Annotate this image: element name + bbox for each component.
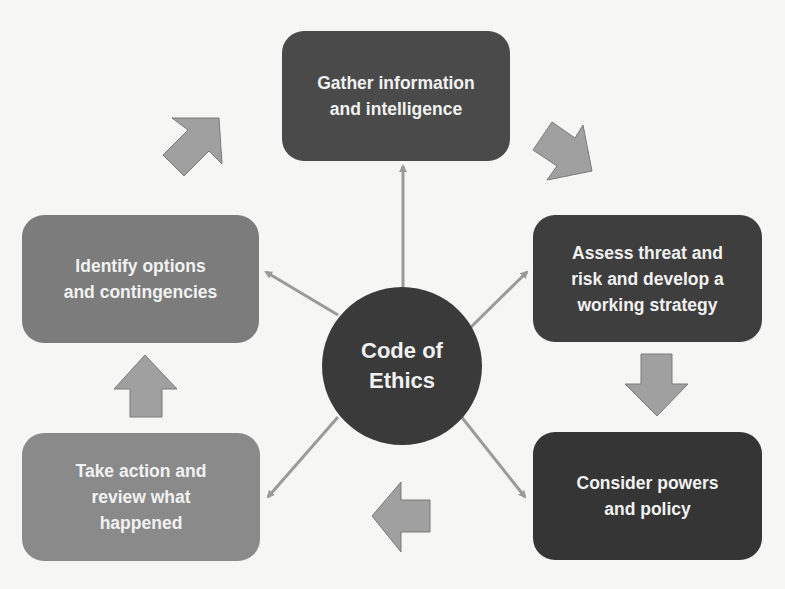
connector-to-consider (460, 415, 525, 497)
step-gather-label: Gather information and intelligence (317, 70, 475, 122)
block-arrow-down-right-icon (533, 122, 592, 180)
step-action-label: Take action and review what happened (76, 458, 207, 536)
block-arrow-left-icon (372, 482, 430, 552)
step-assess-label: Assess threat and risk and develop a wor… (571, 240, 724, 318)
step-consider-label: Consider powers and policy (577, 470, 719, 522)
step-gather-information: Gather information and intelligence (282, 31, 510, 161)
hub-code-of-ethics: Code of Ethics (322, 287, 482, 445)
hub-label: Code of Ethics (361, 336, 443, 396)
code-of-ethics-diagram: Gather information and intelligence Asse… (0, 0, 785, 589)
connector-to-action (268, 417, 338, 497)
step-identify-options: Identify options and contingencies (22, 215, 259, 343)
step-identify-label: Identify options and contingencies (64, 253, 218, 305)
block-arrow-down-icon (625, 354, 688, 416)
step-take-action: Take action and review what happened (22, 433, 260, 561)
connector-to-assess (468, 272, 527, 330)
step-assess-threat: Assess threat and risk and develop a wor… (533, 215, 762, 342)
step-consider-powers: Consider powers and policy (533, 432, 762, 560)
block-arrow-up-right-icon (163, 118, 222, 176)
block-arrow-up-icon (114, 355, 177, 417)
connector-to-identify (266, 272, 338, 315)
